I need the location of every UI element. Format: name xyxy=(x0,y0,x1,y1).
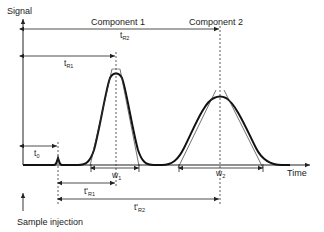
svg-text:tR2: tR2 xyxy=(120,30,129,41)
retention-time-1: tR1 xyxy=(20,56,115,69)
sample-injection: Sample injection xyxy=(17,193,83,227)
dashed-guides xyxy=(58,26,220,204)
y-axis: Signal xyxy=(7,6,32,165)
component-1-label: Component 1 xyxy=(91,17,145,27)
x-axis: Time xyxy=(23,165,310,178)
svg-text:t'R2: t'R2 xyxy=(134,202,145,213)
retention-time-2: tR2 xyxy=(20,29,219,41)
dead-time: t0 xyxy=(20,146,57,159)
peak2-tangents xyxy=(178,90,263,168)
svg-text:t'R1: t'R1 xyxy=(84,186,95,197)
x-axis-label: Time xyxy=(287,168,307,178)
svg-text:w1: w1 xyxy=(111,170,121,181)
component-2-label: Component 2 xyxy=(189,17,243,27)
adjusted-retention-1: t'R1 xyxy=(58,183,115,197)
svg-text:tR1: tR1 xyxy=(64,58,73,69)
peak-width-1: w1 xyxy=(91,164,139,181)
adjusted-retention-2: t'R2 xyxy=(58,199,219,213)
svg-text:t0: t0 xyxy=(34,148,39,159)
signal-curve xyxy=(23,74,290,166)
svg-text:w2: w2 xyxy=(215,168,225,179)
chromatogram-diagram: Signal Time tR2 Component 1 Component 2 … xyxy=(0,0,324,232)
peak-width-2: w2 xyxy=(179,164,263,179)
sample-injection-label: Sample injection xyxy=(17,217,83,227)
y-axis-label: Signal xyxy=(7,6,32,16)
